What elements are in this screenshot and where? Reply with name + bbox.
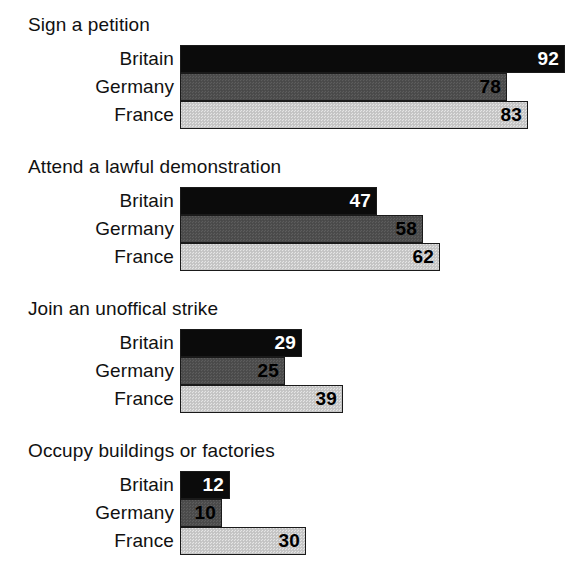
group-title: Attend a lawful demonstration: [28, 156, 281, 178]
bar-value-label: 25: [257, 358, 279, 384]
bar-row: France62: [0, 243, 568, 271]
category-label-britain: Britain: [0, 187, 174, 215]
category-label-france: France: [0, 527, 174, 555]
bar-france: 30: [180, 527, 306, 555]
bar-france: 83: [180, 101, 528, 129]
category-label-france: France: [0, 243, 174, 271]
bar-britain: 92: [180, 45, 565, 73]
bar-britain: 29: [180, 329, 302, 357]
bar-row: Britain92: [0, 45, 568, 73]
bar-row: Britain47: [0, 187, 568, 215]
bar-germany: 25: [180, 357, 285, 385]
bar-britain: 12: [180, 471, 230, 499]
group-title: Sign a petition: [28, 14, 150, 36]
bar-germany: 10: [180, 499, 222, 527]
bar-value-label: 10: [194, 500, 216, 526]
bar-row: France83: [0, 101, 568, 129]
bar-row: Britain12: [0, 471, 568, 499]
bar-row: Germany10: [0, 499, 568, 527]
category-label-germany: Germany: [0, 215, 174, 243]
bar-value-label: 29: [274, 330, 296, 356]
bar-value-label: 39: [315, 386, 337, 412]
bar-value-label: 30: [278, 528, 300, 554]
bar-chart-figure: Sign a petitionBritain92Germany78France8…: [0, 0, 568, 562]
category-label-france: France: [0, 101, 174, 129]
bar-value-label: 62: [412, 244, 434, 270]
category-label-germany: Germany: [0, 357, 174, 385]
bar-value-label: 78: [479, 74, 501, 100]
bar-value-label: 12: [202, 472, 224, 498]
bar-france: 39: [180, 385, 343, 413]
bar-value-label: 58: [395, 216, 417, 242]
group-title: Join an unoffical strike: [28, 298, 218, 320]
category-label-britain: Britain: [0, 45, 174, 73]
bar-value-label: 47: [349, 188, 371, 214]
bar-row: Germany78: [0, 73, 568, 101]
bar-row: France39: [0, 385, 568, 413]
category-label-france: France: [0, 385, 174, 413]
category-label-germany: Germany: [0, 499, 174, 527]
bar-value-label: 83: [500, 102, 522, 128]
category-label-britain: Britain: [0, 471, 174, 499]
category-label-germany: Germany: [0, 73, 174, 101]
bar-row: Germany58: [0, 215, 568, 243]
bar-row: Germany25: [0, 357, 568, 385]
bar-value-label: 92: [537, 46, 559, 72]
bar-france: 62: [180, 243, 440, 271]
category-label-britain: Britain: [0, 329, 174, 357]
bar-row: France30: [0, 527, 568, 555]
group-title: Occupy buildings or factories: [28, 440, 275, 462]
bar-britain: 47: [180, 187, 377, 215]
bar-germany: 58: [180, 215, 423, 243]
bar-germany: 78: [180, 73, 507, 101]
bar-row: Britain29: [0, 329, 568, 357]
